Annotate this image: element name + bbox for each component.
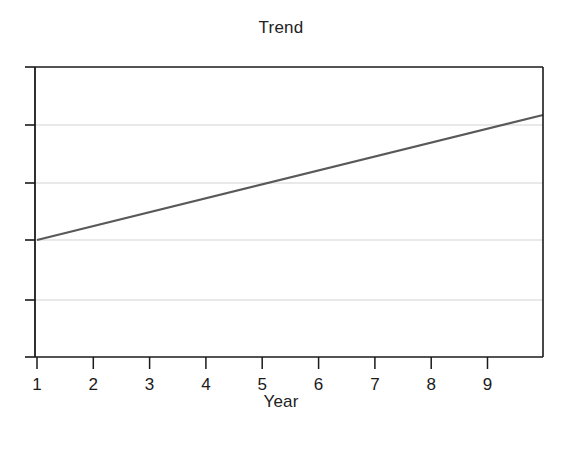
x-axis-ticks <box>37 357 488 369</box>
plot-area: 1 2 3 4 5 6 7 8 9 <box>0 0 562 449</box>
plot-background <box>35 67 543 357</box>
y-axis-ticks <box>25 67 35 357</box>
x-axis-title: Year <box>0 392 562 412</box>
chart-figure: Trend <box>0 0 562 449</box>
